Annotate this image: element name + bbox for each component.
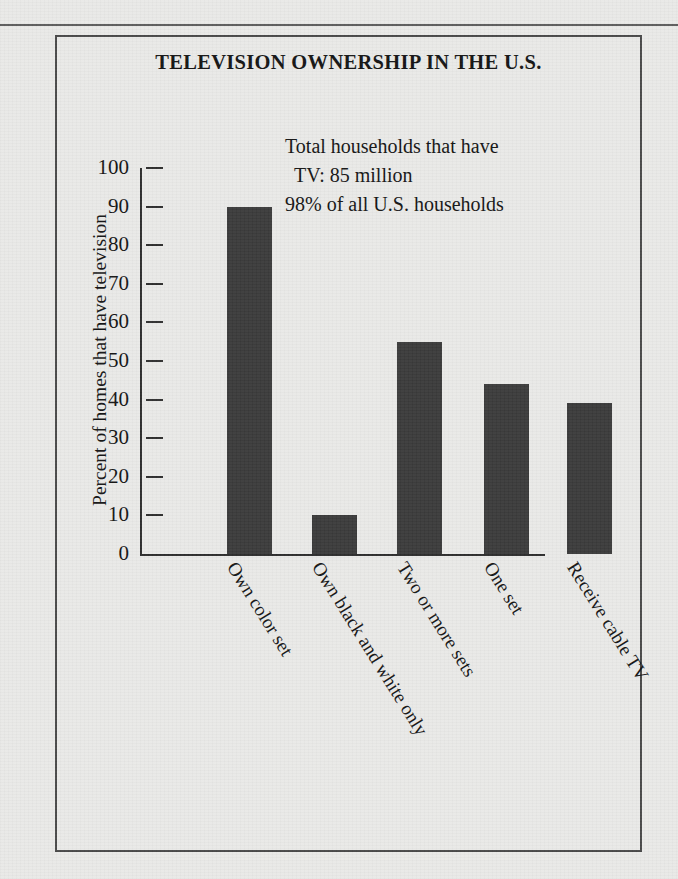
x-axis-label: Own color set bbox=[222, 558, 297, 660]
figure-frame: TELEVISION OWNERSHIP IN THE U.S. Total h… bbox=[55, 35, 642, 852]
y-tick-label: 50 bbox=[108, 348, 129, 373]
bar bbox=[312, 515, 357, 554]
plot-area: Percent of homes that have television 10… bbox=[57, 37, 644, 854]
y-tick-label: 0 bbox=[119, 541, 130, 566]
x-axis-label: Two or more sets bbox=[392, 558, 480, 681]
y-tick-label: 70 bbox=[108, 271, 129, 296]
y-tick-label: 80 bbox=[108, 232, 129, 257]
y-tick-label: 90 bbox=[108, 194, 129, 219]
y-tick-label: 100 bbox=[98, 155, 130, 180]
y-tick-label: 30 bbox=[108, 425, 129, 450]
x-axis-label: Receive cable TV bbox=[562, 558, 653, 685]
y-tick-label: 20 bbox=[108, 464, 129, 489]
bar bbox=[484, 384, 529, 554]
y-tick-label: 40 bbox=[108, 387, 129, 412]
y-tick-label: 10 bbox=[108, 502, 129, 527]
page-top-rule bbox=[0, 24, 678, 26]
x-axis-labels: Own color setOwn black and white onlyTwo… bbox=[140, 558, 560, 838]
bar bbox=[567, 403, 612, 554]
y-tick-label: 60 bbox=[108, 309, 129, 334]
x-axis-label: One set bbox=[479, 558, 528, 618]
bar bbox=[397, 342, 442, 554]
bar bbox=[227, 207, 272, 554]
bar-series bbox=[140, 168, 545, 554]
x-axis-line bbox=[140, 554, 545, 556]
